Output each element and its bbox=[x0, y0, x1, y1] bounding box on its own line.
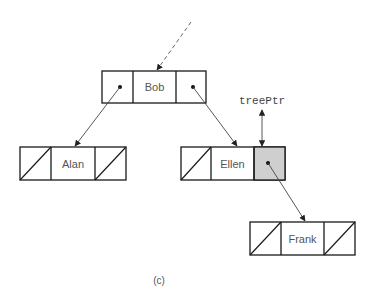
treeptr-label: treePtr bbox=[239, 95, 285, 107]
node-label-frank: Frank bbox=[288, 233, 317, 245]
node-bob: Bob bbox=[102, 71, 206, 103]
incoming-dashed-arrow bbox=[157, 22, 191, 70]
node-frank: Frank bbox=[250, 222, 355, 255]
node-label-ellen: Ellen bbox=[220, 158, 244, 170]
node-ellen: Ellen bbox=[181, 147, 285, 180]
tree-diagram: Bob Alan Ellen Frank treePtr (c) bbox=[0, 0, 373, 290]
node-alan: Alan bbox=[20, 147, 126, 180]
node-label-alan: Alan bbox=[62, 158, 84, 170]
edge-bob-ellen bbox=[193, 87, 237, 146]
edge-ellen-frank bbox=[268, 163, 305, 221]
node-label-bob: Bob bbox=[145, 81, 165, 93]
figure-caption: (c) bbox=[153, 275, 165, 286]
edge-bob-alan bbox=[75, 87, 120, 146]
